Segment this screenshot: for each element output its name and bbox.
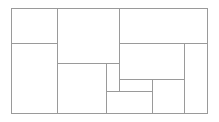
partition-cell-2: [11, 43, 57, 113]
partition-cell-9: [119, 79, 152, 91]
divider-line-v-152: [152, 79, 153, 114]
partition-cell-5: [106, 63, 119, 91]
divider-line-outer-right: [207, 8, 208, 114]
partition-cell-4: [57, 63, 106, 113]
partition-cell-11: [184, 43, 207, 113]
divider-line-outer-bottom: [11, 113, 208, 114]
divider-line-h-63: [57, 63, 120, 64]
divider-line-h-43-right: [119, 43, 208, 44]
partition-cell-7: [119, 8, 207, 43]
partition-cell-10: [152, 79, 184, 113]
divider-line-outer-top: [11, 8, 208, 9]
divider-line-v-106: [106, 63, 107, 114]
divider-line-v-57: [57, 8, 58, 114]
partition-cell-1: [11, 8, 57, 43]
partition-cell-3: [57, 8, 119, 63]
divider-line-h-43-left: [11, 43, 58, 44]
divider-line-outer-left: [11, 8, 12, 114]
divider-line-h-91: [106, 91, 153, 92]
partition-cell-6: [106, 91, 152, 113]
partition-cell-8: [119, 43, 184, 79]
